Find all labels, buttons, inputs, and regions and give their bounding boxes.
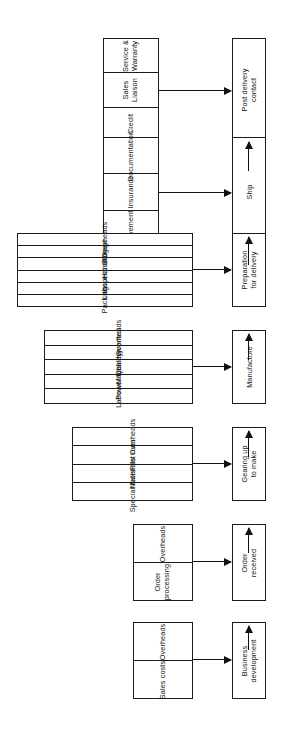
arrow-manufacture-to-preparation bbox=[248, 334, 249, 360]
process-label: Businessdevelopment bbox=[240, 639, 258, 682]
process-box-preparation-for-delivery: Preparationfor delivery bbox=[232, 233, 266, 307]
cost-cell: Insurance bbox=[104, 174, 158, 210]
process-label: Gearing upto make bbox=[240, 445, 258, 482]
cost-group-preparation-for-delivery: Overheads Storage Handling Inspection La… bbox=[17, 233, 193, 307]
cost-cell: Special tools bbox=[73, 483, 192, 500]
cost-cell: Labour bbox=[45, 389, 192, 403]
process-box-ship: Ship bbox=[232, 137, 266, 247]
process-label: Manufacture bbox=[245, 346, 254, 388]
cost-cell: Overheads bbox=[134, 623, 192, 661]
arrow-ship-to-post-delivery-contact bbox=[248, 142, 249, 171]
arrow-business-development-to-order-received bbox=[248, 626, 249, 650]
arrow-gearing-up-to-manufacture bbox=[248, 431, 249, 457]
cost-cell-label: Overheads bbox=[159, 623, 168, 660]
arrow-to-gearing-up-to-make bbox=[193, 463, 231, 464]
process-label: Ship bbox=[245, 184, 254, 199]
cost-cell: Documentation bbox=[104, 138, 158, 174]
process-label: Orderreceived bbox=[240, 548, 258, 576]
cost-group-business-development: Overheads Sales costs bbox=[133, 622, 193, 699]
cost-group-ship: Documentation Insurance Movement bbox=[103, 137, 159, 247]
arrow-to-manufacture bbox=[193, 366, 231, 367]
cost-cell: Orderprocessing bbox=[134, 563, 192, 600]
cost-group-manufacture: Overheads Quality control Machinery Powe… bbox=[44, 330, 193, 404]
cost-cell-label: Documentation bbox=[127, 130, 136, 180]
arrow-to-preparation-for-delivery bbox=[193, 269, 231, 270]
arrow-to-post-delivery-contact bbox=[159, 90, 231, 91]
process-box-business-development: Businessdevelopment bbox=[232, 622, 266, 699]
flow-diagram: Service &Warranty SalesLiaison Credit Po… bbox=[0, 0, 287, 732]
cost-cell: Service &Warranty bbox=[104, 39, 158, 73]
arrow-order-received-to-gearing-up bbox=[248, 528, 249, 553]
process-box-post-delivery-contact: Post deliverycontact bbox=[232, 38, 266, 142]
process-label: Preparationfor delivery bbox=[240, 251, 258, 290]
process-label: Post deliverycontact bbox=[240, 68, 258, 111]
cost-cell-label: Orderprocessing bbox=[154, 563, 171, 599]
cost-cell: Overheads bbox=[134, 525, 192, 563]
cost-group-gearing-up-to-make: Overheads Pilot runs Materials Special t… bbox=[72, 427, 193, 501]
cost-cell-label: Service &Warranty bbox=[122, 40, 139, 72]
cost-cell-label: Insurance bbox=[127, 176, 136, 209]
cost-cell: SalesLiaison bbox=[104, 73, 158, 107]
cost-cell: Packing bbox=[18, 295, 192, 306]
arrow-preparation-to-ship bbox=[248, 237, 249, 265]
process-box-order-received: Orderreceived bbox=[232, 524, 266, 601]
process-box-gearing-up-to-make: Gearing upto make bbox=[232, 427, 266, 501]
cost-group-post-delivery-contact: Service &Warranty SalesLiaison Credit bbox=[103, 38, 159, 142]
cost-cell-label: Packing bbox=[101, 287, 110, 314]
cost-cell: Sales costs bbox=[134, 661, 192, 698]
cost-cell-label: Sales costs bbox=[159, 660, 168, 698]
cost-group-order-received: Overheads Orderprocessing bbox=[133, 524, 193, 601]
arrow-to-business-development bbox=[193, 659, 231, 660]
cost-cell-label: Labour bbox=[114, 385, 123, 408]
arrow-to-ship bbox=[159, 192, 231, 193]
cost-cell-label: SalesLiaison bbox=[122, 78, 139, 102]
cost-cell-label: Special tools bbox=[128, 470, 137, 513]
process-box-manufacture: Manufacture bbox=[232, 330, 266, 404]
cost-cell-label: Overheads bbox=[159, 525, 168, 562]
arrow-to-order-received bbox=[193, 561, 231, 562]
